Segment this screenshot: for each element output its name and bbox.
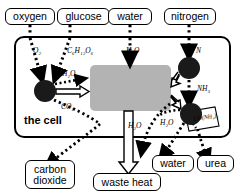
metabolism-box [90, 65, 171, 111]
formula-water-cell-text: H₂O [62, 69, 75, 78]
cell-title: the cell [24, 114, 62, 126]
output-label-urea-text: urea [205, 158, 226, 169]
formula-water-input: H₂O [126, 47, 139, 55]
formula-carbon-dioxide-text: CO₂ [61, 102, 74, 111]
input-label-nitrogen[interactable]: nitrogen [164, 8, 216, 25]
formula-ammonia-text: NH₃ [197, 84, 210, 93]
formula-water-mid: H₂O [128, 122, 141, 130]
input-label-oxygen[interactable]: oxygen [5, 8, 55, 25]
input-label-nitrogen-text: nitrogen [171, 11, 209, 22]
formula-water-input-text: H₂O [126, 46, 139, 55]
formula-oxygen: O₂ [33, 47, 41, 55]
output-label-water-text: water [160, 158, 186, 169]
formula-ammonia: NH₃ [197, 85, 210, 93]
input-label-water-text: water [117, 11, 143, 22]
output-label-waste-heat-text: waste heat [102, 177, 153, 188]
cell-title-text: the cell [24, 114, 62, 126]
formula-oxygen-text: O₂ [33, 46, 41, 55]
formula-water-cell: H₂O [62, 70, 75, 78]
formula-nitrogen-text: N [196, 46, 201, 55]
input-label-glucose-text: glucose [65, 11, 101, 22]
respiration-node [34, 80, 56, 102]
output-label-carbon-dioxide-line2: dioxide [33, 175, 66, 186]
formula-nitrogen: N [196, 47, 201, 55]
input-label-glucose[interactable]: glucose [57, 8, 110, 25]
output-label-waste-heat[interactable]: waste heat [93, 173, 161, 191]
input-label-oxygen-text: oxygen [13, 11, 47, 22]
diagram-canvas: oxygen glucose water nitrogen carbon dio… [0, 0, 244, 195]
formula-water-right: H₂O [160, 119, 173, 127]
output-label-urea[interactable]: urea [197, 155, 234, 172]
formula-water-right-text: H₂O [160, 118, 173, 127]
output-label-carbon-dioxide-line1: carbon [34, 164, 66, 175]
formula-glucose: C₆H₁₂O₆ [67, 47, 93, 55]
formula-glucose-text: C₆H₁₂O₆ [67, 46, 93, 55]
input-label-water[interactable]: water [108, 8, 152, 25]
output-label-carbon-dioxide[interactable]: carbon dioxide [25, 160, 75, 189]
nitrogen-node [178, 57, 200, 79]
output-label-water[interactable]: water [152, 155, 194, 172]
formula-carbon-dioxide: CO₂ [61, 103, 74, 111]
formula-water-mid-text: H₂O [128, 121, 141, 130]
